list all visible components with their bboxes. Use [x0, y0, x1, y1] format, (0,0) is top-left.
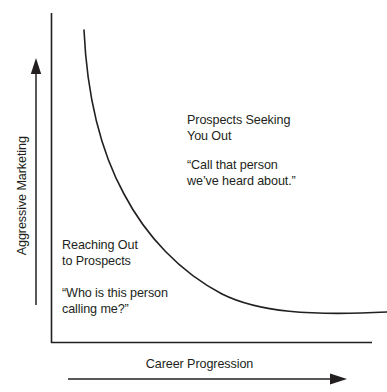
y-axis-label: Aggressive Marketing	[15, 121, 31, 271]
y-axis-arrow	[31, 58, 41, 305]
diagram-graphic	[0, 0, 387, 392]
x-axis-label: Career Progression	[0, 357, 387, 373]
annotation-quote-who-is-this-person: “Who is this person calling me?”	[62, 286, 168, 317]
diagram-canvas: Prospects Seeking You Out “Call that per…	[0, 0, 387, 392]
annotation-quote-call-that-person: “Call that person we’ve heard about.”	[187, 158, 296, 189]
annotation-reaching-out-to-prospects: Reaching Out to Prospects	[62, 238, 138, 269]
annotation-prospects-seeking-you-out: Prospects Seeking You Out	[187, 113, 290, 144]
x-axis-arrow	[68, 374, 347, 385]
